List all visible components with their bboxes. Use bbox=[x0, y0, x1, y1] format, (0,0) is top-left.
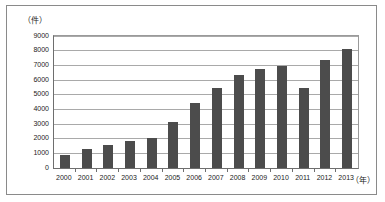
y-axis-tick-labels: 0100020003000400050006000700080009000 bbox=[13, 35, 49, 169]
x-axis-tick-mark bbox=[270, 169, 271, 172]
x-axis-tick-mark bbox=[314, 169, 315, 172]
bar bbox=[234, 75, 244, 168]
y-axis-unit-label: （件） bbox=[23, 14, 47, 25]
x-axis-tick-label: 2005 bbox=[162, 174, 184, 182]
chart-figure-frame: （件） （年） 01000200030004000500060007000800… bbox=[6, 5, 377, 195]
bar-slot bbox=[76, 36, 98, 168]
bar-slot bbox=[206, 36, 228, 168]
x-axis-tick-mark bbox=[96, 169, 97, 172]
bar-slot bbox=[271, 36, 293, 168]
y-axis-tick-label: 4000 bbox=[15, 105, 49, 112]
bar-slot bbox=[249, 36, 271, 168]
bar bbox=[342, 49, 352, 168]
x-axis-tick-labels: 2000200120022003200420052006200720082009… bbox=[53, 174, 359, 186]
bar bbox=[82, 149, 92, 168]
x-axis-tick-label: 2004 bbox=[140, 174, 162, 182]
x-axis-tick-mark bbox=[335, 169, 336, 172]
x-axis-tick-mark bbox=[162, 169, 163, 172]
x-axis-tick-mark bbox=[227, 169, 228, 172]
x-axis-tick-label: 2003 bbox=[118, 174, 140, 182]
y-axis-tick-label: 2000 bbox=[15, 134, 49, 141]
x-axis-tick-label: 2007 bbox=[205, 174, 227, 182]
bar bbox=[277, 66, 287, 168]
x-axis-tick-mark bbox=[118, 169, 119, 172]
bar bbox=[320, 60, 330, 168]
x-axis-tick-label: 2013 bbox=[335, 174, 357, 182]
bar-slot bbox=[228, 36, 250, 168]
bar-slot bbox=[336, 36, 358, 168]
plot-area bbox=[53, 35, 359, 169]
x-axis-tick-label: 2011 bbox=[292, 174, 314, 182]
bar-slot bbox=[97, 36, 119, 168]
x-axis-tick-label: 2010 bbox=[270, 174, 292, 182]
bar bbox=[168, 122, 178, 168]
y-axis-tick-label: 8000 bbox=[15, 46, 49, 53]
bar bbox=[103, 145, 113, 168]
bar bbox=[147, 138, 157, 168]
x-axis-tick-mark bbox=[248, 169, 249, 172]
x-axis-tick-mark bbox=[140, 169, 141, 172]
y-axis-tick-label: 5000 bbox=[15, 90, 49, 97]
x-axis-tick-label: 2002 bbox=[96, 174, 118, 182]
bar bbox=[190, 103, 200, 168]
x-axis-tick-mark bbox=[75, 169, 76, 172]
bar-slot bbox=[184, 36, 206, 168]
bar bbox=[255, 69, 265, 168]
y-axis-tick-label: 3000 bbox=[15, 120, 49, 127]
x-axis-tick-label: 2012 bbox=[314, 174, 336, 182]
y-axis-tick-label: 0 bbox=[15, 164, 49, 171]
bar-series bbox=[54, 36, 358, 168]
y-axis-tick-label: 9000 bbox=[15, 32, 49, 39]
bar bbox=[125, 141, 135, 168]
x-axis-tick-mark bbox=[205, 169, 206, 172]
bar-slot bbox=[54, 36, 76, 168]
x-axis-tick-label: 2009 bbox=[248, 174, 270, 182]
bar bbox=[299, 88, 309, 168]
x-axis-tick-mark bbox=[183, 169, 184, 172]
y-axis-tick-label: 6000 bbox=[15, 76, 49, 83]
y-axis-tick-label: 1000 bbox=[15, 149, 49, 156]
bar-slot bbox=[119, 36, 141, 168]
bar-slot bbox=[163, 36, 185, 168]
bar bbox=[60, 155, 70, 168]
bar-slot bbox=[141, 36, 163, 168]
bar-slot bbox=[293, 36, 315, 168]
bar-slot bbox=[315, 36, 337, 168]
x-axis-tick-label: 2001 bbox=[75, 174, 97, 182]
x-axis-tick-label: 2006 bbox=[183, 174, 205, 182]
x-axis-tick-label: 2008 bbox=[227, 174, 249, 182]
y-axis-tick-label: 7000 bbox=[15, 61, 49, 68]
bar bbox=[212, 88, 222, 168]
x-axis-tick-mark bbox=[292, 169, 293, 172]
x-axis-tick-label: 2000 bbox=[53, 174, 75, 182]
